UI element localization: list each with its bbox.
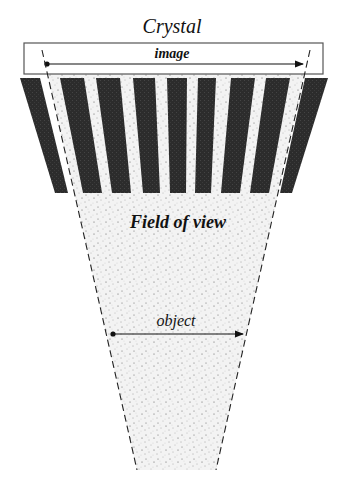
field-of-view-label: Field of view (129, 212, 227, 232)
crystal-title: Crystal (143, 15, 202, 38)
septum-5 (167, 78, 187, 193)
object-arrow-start-dot (110, 331, 115, 336)
image-label: image (155, 46, 190, 61)
object-label: object (156, 312, 196, 330)
collimator-diagram: Crystal image Field of view object (0, 0, 345, 488)
